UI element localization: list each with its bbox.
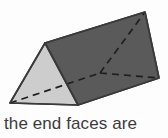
figure-caption: the end faces are: [4, 113, 168, 135]
prism-figure-page: the end faces are: [0, 0, 168, 138]
